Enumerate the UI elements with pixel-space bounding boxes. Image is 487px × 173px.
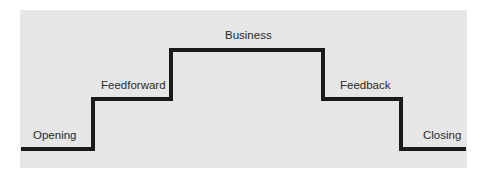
stage-label-feedback: Feedback <box>340 80 391 92</box>
stage-label-closing: Closing <box>423 130 461 142</box>
stage-label-opening: Opening <box>33 130 76 142</box>
step-line-diagram <box>0 0 487 173</box>
stage-label-business: Business <box>225 30 272 42</box>
stage-label-feedforward: Feedforward <box>101 80 166 92</box>
step-line <box>21 50 466 149</box>
